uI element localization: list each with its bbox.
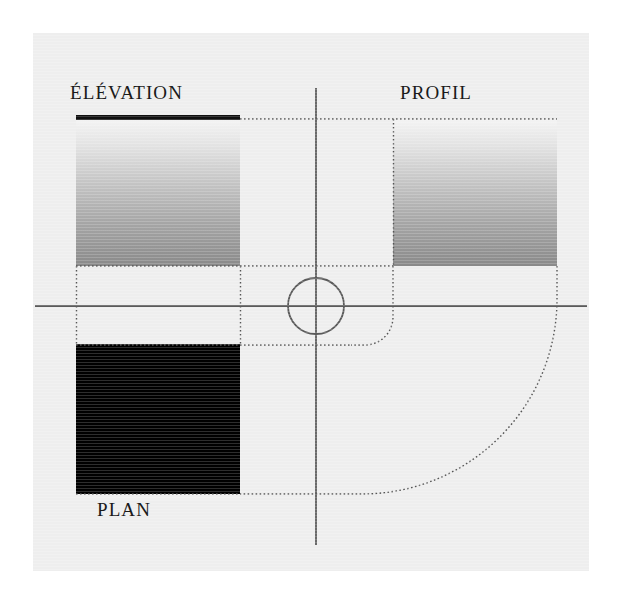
drawing-canvas: [33, 33, 589, 571]
dotted-large-radius-arc: [240, 266, 557, 494]
elevation-block: [76, 120, 240, 266]
label-elevation: ÉLÉVATION: [70, 83, 183, 102]
label-plan: PLAN: [97, 500, 151, 519]
plan-block: [76, 344, 240, 494]
profil-block: [393, 120, 557, 266]
technical-drawing: [33, 33, 589, 571]
label-profil: PROFIL: [400, 83, 472, 102]
elevation-title-rule: [76, 115, 240, 120]
drawing-page: ÉLÉVATION PROFIL PLAN: [0, 0, 621, 602]
